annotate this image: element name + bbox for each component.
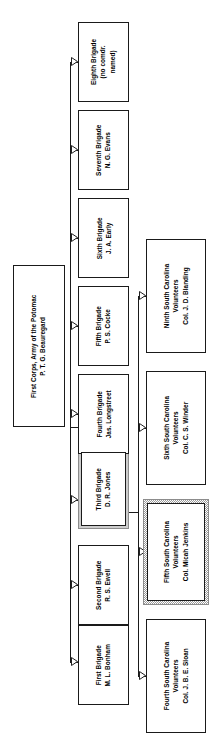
node-label: Sixth BrigadeJ. A. Early [94, 217, 113, 259]
node-sixth-south-carolina[interactable]: Sixth South CarolinaVolunteersCol. C. S.… [146, 371, 206, 485]
node-ninth-south-carolina[interactable]: Ninth South CarolinaVolunteersCol. J. D.… [146, 239, 206, 353]
arrowhead-ninth-regiment [139, 291, 146, 300]
node-label: Fifth BrigadeP. S. Cocke [94, 306, 113, 346]
node-label: Ninth South CarolinaVolunteersCol. J. D.… [162, 264, 190, 329]
node-fifth-south-carolina[interactable]: Fifth South CarolinaVolunteersCol. Micah… [147, 503, 205, 601]
arrowhead-fourth-regiment [139, 671, 146, 680]
node-second-brigade[interactable]: Second BrigadeR. S. Ewell [78, 545, 129, 625]
arrowhead-third-brigade [71, 495, 78, 504]
node-seventh-brigade[interactable]: Seventh BrigadeN. G. Evans [78, 110, 129, 190]
connector-regiment-spine [138, 296, 139, 676]
node-label: Second BrigadeR. S. Ewell [94, 560, 113, 609]
node-label: Third BrigadeD. R. Jones [94, 468, 113, 510]
connector-third-brigade-stub [129, 512, 138, 513]
node-first-brigade[interactable]: First BrigadeM. L. Bonham [78, 625, 129, 705]
node-label: Seventh BrigadeN. G. Evans [94, 124, 113, 175]
node-label: Fifth South CarolinaVolunteersCol. Micah… [162, 521, 190, 583]
arrowhead-second-brigade [71, 580, 78, 589]
node-label: Fourth BrigadeJas. Longstreet [94, 390, 113, 438]
arrowhead-seventh-brigade [71, 145, 78, 154]
arrowhead-eighth-brigade [71, 57, 78, 66]
arrowhead-first-brigade [71, 657, 78, 666]
node-fifth-brigade[interactable]: Fifth BrigadeP. S. Cocke [78, 286, 129, 366]
arrowhead-fifth-brigade [71, 321, 78, 330]
node-eighth-brigade[interactable]: Eighth Brigade(no comdr.named) [78, 22, 129, 102]
arrowhead-fourth-brigade [71, 409, 78, 418]
node-sixth-brigade[interactable]: Sixth BrigadeJ. A. Early [78, 198, 129, 278]
node-label: Fourth South CarolinaVolunteersCol. J. B… [162, 642, 190, 711]
node-first-corps[interactable]: First Corps, Army of the PotomacP. T. G.… [13, 265, 65, 427]
node-label: First Corps, Army of the PotomacP. T. G.… [30, 294, 49, 397]
node-fourth-brigade[interactable]: Fourth BrigadeJas. Longstreet [78, 374, 129, 454]
node-label: Eighth Brigade(no comdr.named) [90, 39, 118, 85]
node-label: First BrigadeM. L. Bonham [94, 644, 113, 687]
node-label: Sixth South CarolinaVolunteersCol. C. S.… [162, 396, 190, 460]
node-fourth-south-carolina[interactable]: Fourth South CarolinaVolunteersCol. J. B… [146, 619, 206, 733]
arrowhead-sixth-brigade [71, 233, 78, 242]
node-third-brigade[interactable]: Third BrigadeD. R. Jones [81, 452, 126, 526]
org-chart: First Corps, Army of the PotomacP. T. G.… [0, 0, 212, 746]
arrowhead-sixth-regiment [139, 423, 146, 432]
